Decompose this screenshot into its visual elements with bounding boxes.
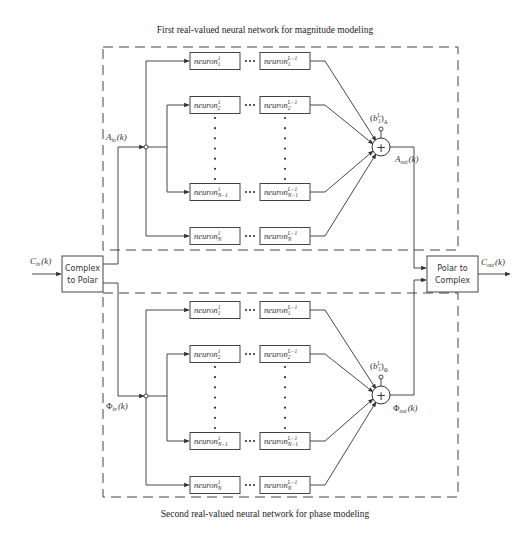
svg-text:Complex: Complex — [65, 264, 100, 273]
phase-out-label: Φout(k) — [393, 403, 418, 414]
complex-to-polar-block: Complex to Polar — [62, 256, 103, 292]
neuron-box: neuronL−1N−1 — [260, 184, 310, 201]
horizontal-ellipsis — [245, 191, 255, 193]
neuron-box: neuronL−1N — [260, 228, 310, 245]
svg-text:Complex: Complex — [435, 276, 470, 285]
magnitude-split-node — [144, 145, 148, 149]
neuron-box: neuron12 — [190, 97, 240, 114]
row-2-output-wire — [310, 354, 373, 392]
svg-text:+: + — [376, 141, 386, 155]
neuron-layer: neuron11neuronL−11neuron12neuronL−12neur… — [190, 53, 310, 494]
neuron-box: neuron11 — [190, 302, 240, 319]
bottom-network-caption: Second real-valued neural network for ph… — [161, 509, 370, 519]
polar-to-complex-block: Polar to Complex — [427, 256, 478, 292]
phase-bias-label: (bL1)Φ — [370, 360, 388, 373]
horizontal-ellipsis — [245, 353, 255, 355]
row-n-output-wire — [310, 154, 376, 236]
magnitude-bias-node — [379, 127, 383, 131]
svg-text:Cout(k): Cout(k) — [481, 257, 505, 268]
neuron-box: neuron11 — [190, 53, 240, 70]
vertical-ellipsis — [284, 117, 286, 180]
neuron-box: neuron12 — [190, 346, 240, 363]
top-network-caption: First real-valued neural network for mag… — [157, 25, 374, 35]
neuron-box: neuronL−1N−1 — [260, 433, 310, 450]
magnitude-bias-label: (bL1)A — [370, 112, 388, 125]
phase-out-wire — [390, 280, 426, 395]
horizontal-ellipsis — [245, 60, 255, 62]
phase-summing-node: + — [372, 386, 390, 404]
input-signal-label: Cin(k) — [30, 256, 51, 267]
phase-split-node — [144, 394, 148, 398]
svg-text:Cin(k): Cin(k) — [30, 256, 51, 267]
neuron-box: neuronL−11 — [260, 53, 310, 70]
svg-text:Polar to: Polar to — [437, 264, 468, 273]
magnitude-in-wire — [103, 147, 144, 264]
neuron-box: neuron1N−1 — [190, 433, 240, 450]
svg-text:neuron12: neuron12 — [194, 99, 221, 111]
row-n-1-output-wire — [310, 399, 373, 441]
svg-text:to Polar: to Polar — [67, 276, 98, 285]
svg-text:neuron11: neuron11 — [194, 304, 221, 316]
horizontal-ellipsis — [245, 104, 255, 106]
neuron-box: neuron1N — [190, 477, 240, 494]
svg-text:Ain(k): Ain(k) — [105, 132, 127, 143]
neural-network-diagram: First real-valued neural network for mag… — [0, 0, 527, 536]
neuron-box: neuronL−12 — [260, 97, 310, 114]
horizontal-ellipsis — [245, 235, 255, 237]
magnitude-out-label: Aout(k) — [394, 154, 419, 165]
svg-text:neuron1N: neuron1N — [194, 479, 222, 491]
output-signal-label: Cout(k) — [481, 257, 505, 268]
svg-text:Aout(k): Aout(k) — [394, 154, 419, 165]
svg-text:(bL1)A: (bL1)A — [370, 112, 388, 125]
phase-in-label: Φin(k) — [106, 401, 128, 412]
phase-in-wire — [103, 283, 144, 396]
svg-text:neuron11: neuron11 — [194, 55, 221, 67]
row-2-output-wire — [310, 105, 373, 144]
svg-text:Φout(k): Φout(k) — [393, 403, 418, 414]
neuron-box: neuronL−12 — [260, 346, 310, 363]
magnitude-neuron-grid: neuron11neuronL−11neuron12neuronL−12neur… — [190, 53, 310, 245]
horizontal-ellipsis — [245, 484, 255, 486]
vertical-ellipsis — [214, 117, 216, 180]
row-1-output-wire — [310, 310, 376, 389]
svg-text:neuron12: neuron12 — [194, 348, 221, 360]
svg-text:neuron1N: neuron1N — [194, 230, 222, 242]
neuron-box: neuronL−1N — [260, 477, 310, 494]
row-n-1-output-wire — [310, 151, 373, 192]
vertical-ellipsis — [284, 366, 286, 429]
neuron-box: neuron1N — [190, 228, 240, 245]
svg-text:Φin(k): Φin(k) — [106, 401, 128, 412]
phase-neuron-grid: neuron11neuronL−11neuron12neuronL−12neur… — [190, 302, 310, 494]
horizontal-ellipsis — [245, 440, 255, 442]
magnitude-in-label: Ain(k) — [105, 132, 127, 143]
magnitude-network-boundary — [103, 47, 458, 250]
row-1-output-wire — [310, 61, 376, 141]
svg-text:(bL1)Φ: (bL1)Φ — [370, 360, 388, 373]
neuron-box: neuron1N−1 — [190, 184, 240, 201]
svg-text:+: + — [376, 389, 386, 403]
phase-bias-node — [379, 375, 383, 379]
svg-text:neuronL−1N−1: neuronL−1N−1 — [264, 435, 298, 447]
horizontal-ellipsis — [245, 309, 255, 311]
magnitude-summing-node: + — [372, 138, 390, 156]
row-n-output-wire — [310, 402, 376, 485]
svg-text:neuronL−1N−1: neuronL−1N−1 — [264, 186, 298, 198]
neuron-box: neuronL−11 — [260, 302, 310, 319]
vertical-ellipsis — [214, 366, 216, 429]
